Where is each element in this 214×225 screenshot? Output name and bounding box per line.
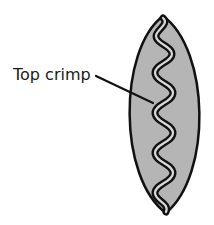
top-crimp-label: Top crimp — [12, 65, 91, 84]
crimp-diagram: Top crimp — [0, 0, 214, 225]
